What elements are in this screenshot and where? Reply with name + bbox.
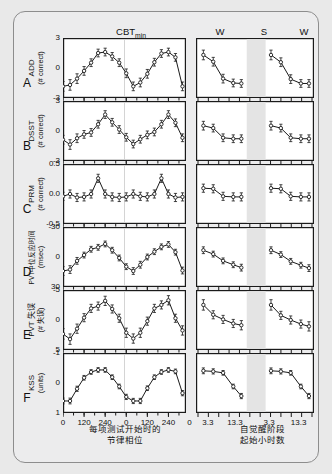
- panel-e-ytick: 0: [36, 315, 60, 324]
- panel-d-circadian-plot: [63, 227, 186, 297]
- panel-f-wake-plot: [196, 353, 314, 423]
- panel-c-ytick: 0.0: [36, 189, 60, 198]
- header-wake-1: W: [212, 26, 228, 37]
- panel-b-circadian-plot: [63, 101, 186, 171]
- header-cbt-min: CBTmin: [96, 26, 166, 39]
- panel-f-ytick: -1: [36, 348, 60, 357]
- panel-c-circadian-plot: [63, 164, 186, 234]
- xaxis-right-caption: 自觉醒阶段 起始小时数: [205, 424, 320, 445]
- panel-a-ytick: 3: [36, 33, 60, 42]
- panel-f-circadian-plot: [63, 353, 186, 423]
- header-wake-2: W: [296, 26, 312, 37]
- panel-a-wake-plot: [196, 38, 314, 108]
- panel-e-wake-plot: [196, 290, 314, 360]
- panel-b-ytick: 3: [36, 96, 60, 105]
- panel-e-ytick: -5: [36, 285, 60, 294]
- header-sleep: S: [256, 26, 272, 37]
- panel-f-ytick: 0: [36, 378, 60, 387]
- panel-b-wake-plot: [196, 101, 314, 171]
- panel-d-wake-plot: [196, 227, 314, 297]
- figure-root: CBTmin W S W AADD(# correct)30-3BDSST(# …: [0, 0, 332, 474]
- xaxis-left-caption: 每项测试开始时的 节律相位: [60, 424, 190, 445]
- panel-b-ytick: 0: [36, 126, 60, 135]
- panel-a-circadian-plot: [63, 38, 186, 108]
- panel-c-ytick: 0.5: [36, 159, 60, 168]
- panel-d-ytick: 0: [36, 252, 60, 261]
- panel-d-ytick: -30: [36, 222, 60, 231]
- panel-c-wake-plot: [196, 164, 314, 234]
- panel-e-circadian-plot: [63, 290, 186, 360]
- ylabel-line1: KSS: [27, 345, 36, 421]
- panel-a-ytick: 0: [36, 63, 60, 72]
- panel-f-ytick: 1: [36, 408, 60, 417]
